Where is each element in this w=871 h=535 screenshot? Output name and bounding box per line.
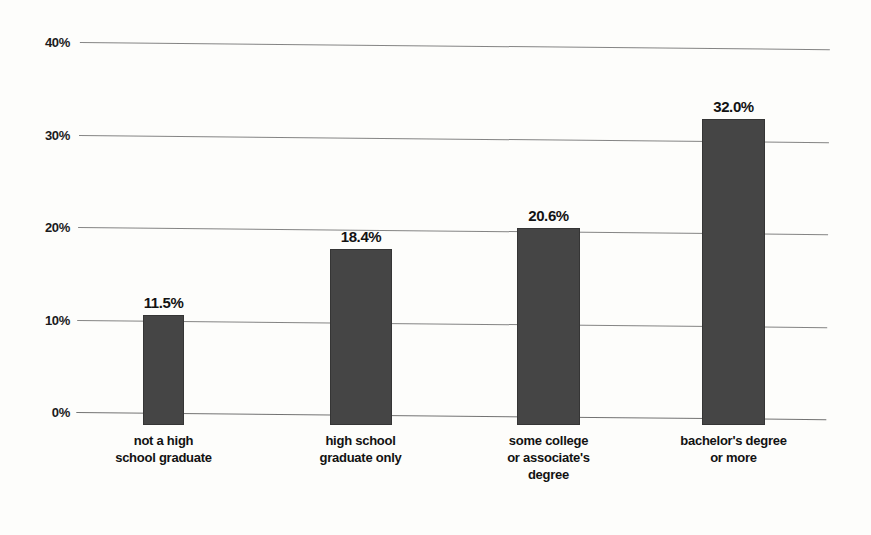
y-axis-tick-label: 10%: [45, 312, 70, 327]
bar-chart: 40% 30% 20% 10% 0% 11.5% 18.4% 20.6%: [0, 0, 871, 535]
category-label-line: or associate's: [468, 449, 629, 466]
category-label-line: high school: [280, 432, 441, 449]
category-label-line: school graduate: [83, 449, 244, 466]
bar-value-label: 20.6%: [528, 207, 569, 224]
bar-group: 18.4%: [330, 43, 392, 425]
y-axis-tick-label: 30%: [45, 127, 70, 142]
y-axis-tick-label: 40%: [45, 35, 70, 50]
x-axis-labels: not a high school graduate high school g…: [80, 432, 830, 517]
x-axis-category-label: some college or associate's degree: [468, 432, 629, 483]
bar-group: 11.5%: [143, 43, 184, 425]
x-axis-category-label: bachelor's degree or more: [653, 432, 814, 466]
bar-value-label: 32.0%: [713, 98, 754, 115]
bar[interactable]: [143, 315, 184, 425]
category-label-line: bachelor's degree: [653, 432, 814, 449]
bar-value-label: 18.4%: [341, 228, 382, 245]
bar-group: 32.0%: [702, 43, 765, 425]
bar[interactable]: [330, 249, 392, 425]
x-axis-category-label: high school graduate only: [280, 432, 441, 466]
x-axis-category-label: not a high school graduate: [83, 432, 244, 466]
category-label-line: some college: [468, 432, 629, 449]
bar-group: 20.6%: [517, 43, 580, 425]
category-label-line: degree: [468, 466, 629, 483]
y-axis-tick-label: 0%: [52, 405, 70, 420]
bar[interactable]: [517, 228, 580, 425]
bar-series: 11.5% 18.4% 20.6% 32.0%: [80, 30, 830, 425]
plot-area: 40% 30% 20% 10% 0% 11.5% 18.4% 20.6%: [80, 30, 830, 425]
category-label-line: graduate only: [280, 449, 441, 466]
category-label-line: or more: [653, 449, 814, 466]
category-label-line: not a high: [83, 432, 244, 449]
bar-value-label: 11.5%: [144, 294, 184, 311]
bar[interactable]: [702, 119, 765, 425]
y-axis-tick-label: 20%: [45, 220, 70, 235]
